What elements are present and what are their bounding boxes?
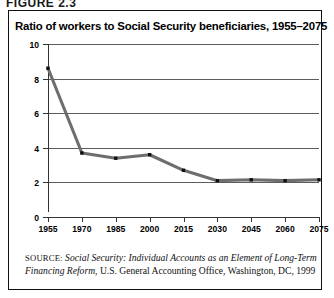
source-keyword: SOURCE: xyxy=(25,253,63,263)
x-axis-tick xyxy=(82,217,83,222)
data-point-marker xyxy=(250,178,253,181)
data-point-marker xyxy=(114,156,117,159)
x-axis-tick xyxy=(251,217,252,222)
data-point-marker xyxy=(148,153,151,156)
x-axis-tick xyxy=(319,217,320,222)
x-axis-label: 1985 xyxy=(99,224,133,234)
x-axis-tick xyxy=(184,217,185,222)
x-axis-label: 2015 xyxy=(167,224,201,234)
data-point-marker xyxy=(216,179,219,182)
figure-number-label: FIGURE 2.3 xyxy=(6,0,76,10)
data-point-marker xyxy=(317,178,320,181)
x-axis-label: 1970 xyxy=(65,224,99,234)
x-axis-tick xyxy=(150,217,151,222)
x-axis-group: 195519701985200020152030204520602075 xyxy=(17,217,317,237)
figure-box: Ratio of workers to Social Security bene… xyxy=(8,10,322,290)
x-axis-tick xyxy=(48,217,49,222)
x-axis-label: 2030 xyxy=(200,224,234,234)
x-axis-tick xyxy=(116,217,117,222)
chart-title: Ratio of workers to Social Security bene… xyxy=(15,20,317,33)
data-point-marker xyxy=(283,179,286,182)
x-axis-label: 2060 xyxy=(268,224,302,234)
data-point-marker xyxy=(46,67,49,70)
data-series-layer xyxy=(17,41,317,237)
data-point-marker xyxy=(182,169,185,172)
x-axis-label: 2045 xyxy=(234,224,268,234)
source-caption: SOURCE: Social Security: Individual Acco… xyxy=(25,252,317,277)
chart-plot-area: 0246810 19551970198520002015203020452060… xyxy=(17,41,317,237)
data-point-marker xyxy=(80,151,83,154)
x-axis-tick xyxy=(285,217,286,222)
x-axis-label: 2075 xyxy=(302,224,334,234)
x-axis-label: 2000 xyxy=(133,224,167,234)
source-publisher: , U.S. General Accounting Office, Washin… xyxy=(95,265,315,276)
x-axis-tick xyxy=(217,217,218,222)
series-line xyxy=(48,68,319,180)
x-axis-label: 1955 xyxy=(31,224,65,234)
series-markers-group xyxy=(46,67,320,183)
